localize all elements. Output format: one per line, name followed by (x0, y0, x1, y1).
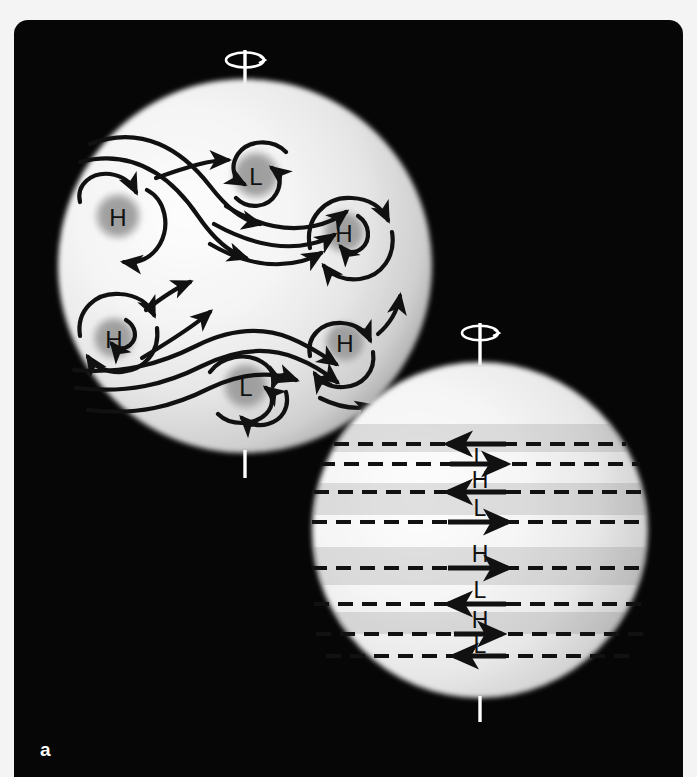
figure-panel-a: H L H H H L (14, 20, 683, 777)
panel-label-a: a (40, 740, 51, 759)
jet-label: L (474, 495, 487, 521)
pressure-label: H (335, 220, 352, 247)
figure-root: H L H H H L (0, 0, 697, 777)
pressure-label: H (336, 330, 353, 357)
diagram-canvas: H L H H H L (14, 20, 683, 777)
jet-label: H (472, 541, 489, 567)
pressure-label: H (109, 204, 126, 231)
jet-label: L (474, 632, 487, 658)
pressure-label: L (239, 374, 252, 401)
jet-label: H (472, 607, 489, 633)
jet-labels: L H L H L H L (472, 444, 489, 658)
rotation-axis-marker-banded (462, 323, 499, 365)
jet-label: L (474, 577, 487, 603)
pressure-label: H (105, 326, 122, 353)
pressure-label: L (249, 163, 262, 190)
jet-label: H (472, 467, 489, 493)
